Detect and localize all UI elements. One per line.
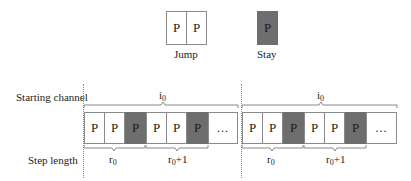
bottom-brace-2b [304, 145, 366, 151]
step-label-r0-plus-1: r0+1 [168, 153, 187, 167]
bottom-brace-1a [84, 145, 145, 151]
step-label-r0: r0 [267, 153, 275, 167]
top-brace-label-1: i0 [159, 89, 166, 103]
top-brace-label-2: i0 [317, 89, 324, 103]
cell-stay: P [125, 112, 146, 144]
cell-jump: P [104, 112, 125, 144]
bottom-brace-1b [146, 145, 208, 151]
cell-stay: P [345, 112, 366, 144]
cell-jump: P [324, 112, 345, 144]
cell-ellipsis: ... [208, 112, 238, 144]
cell-jump: P [262, 112, 283, 144]
step-label-r0-plus-1: r0+1 [326, 153, 345, 167]
cell-ellipsis: ... [366, 112, 397, 144]
bottom-brace-2a [242, 145, 303, 151]
cell-jump: P [84, 112, 105, 144]
step-label-r0: r0 [109, 153, 117, 167]
cell-jump: P [242, 112, 263, 144]
braces [0, 0, 411, 181]
cell-stay: P [283, 112, 304, 144]
cell-jump: P [146, 112, 167, 144]
cell-stay: P [187, 112, 208, 144]
cell-jump: P [304, 112, 325, 144]
cell-jump: P [166, 112, 187, 144]
